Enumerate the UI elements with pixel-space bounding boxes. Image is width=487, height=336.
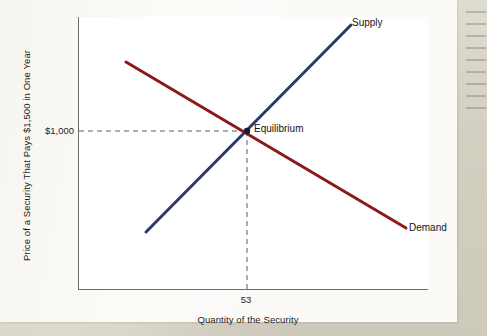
supply-demand-figure: Price of a Security That Pays $1,500 in …: [0, 0, 457, 322]
y-axis-tick-label-price: $1,000: [45, 125, 74, 136]
textbook-page-panel: Price of a Security That Pays $1,500 in …: [0, 0, 457, 322]
plot-canvas: [79, 17, 429, 290]
adjacent-page-text-fragment: [466, 6, 486, 114]
supply-curve-label: Supply: [352, 17, 383, 28]
y-axis-title: Price of a Security That Pays $1,500 in …: [21, 26, 32, 286]
demand-curve: [126, 62, 406, 228]
plot-area: [78, 17, 428, 290]
equilibrium-label: Equilibrium: [254, 123, 303, 134]
equilibrium-point-marker: [244, 128, 250, 134]
demand-curve-label: Demand: [409, 222, 447, 233]
x-axis-title: Quantity of the Security: [128, 314, 368, 325]
x-axis-tick-label-quantity: 53: [228, 294, 264, 305]
